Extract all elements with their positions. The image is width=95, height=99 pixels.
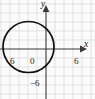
y-tick-label-below: −6: [30, 79, 40, 88]
x-axis-name-label: x: [84, 40, 88, 50]
x-tick-label-right: 6: [74, 57, 79, 66]
origin-label: 0: [30, 57, 35, 66]
circle-graph-figure: 6 0 6 −6 y x: [0, 0, 95, 99]
x-tick-label-left: 6: [10, 57, 15, 66]
graph-canvas: [0, 0, 95, 99]
x-axis: [0, 46, 87, 53]
y-axis-name-label: y: [41, 0, 45, 10]
